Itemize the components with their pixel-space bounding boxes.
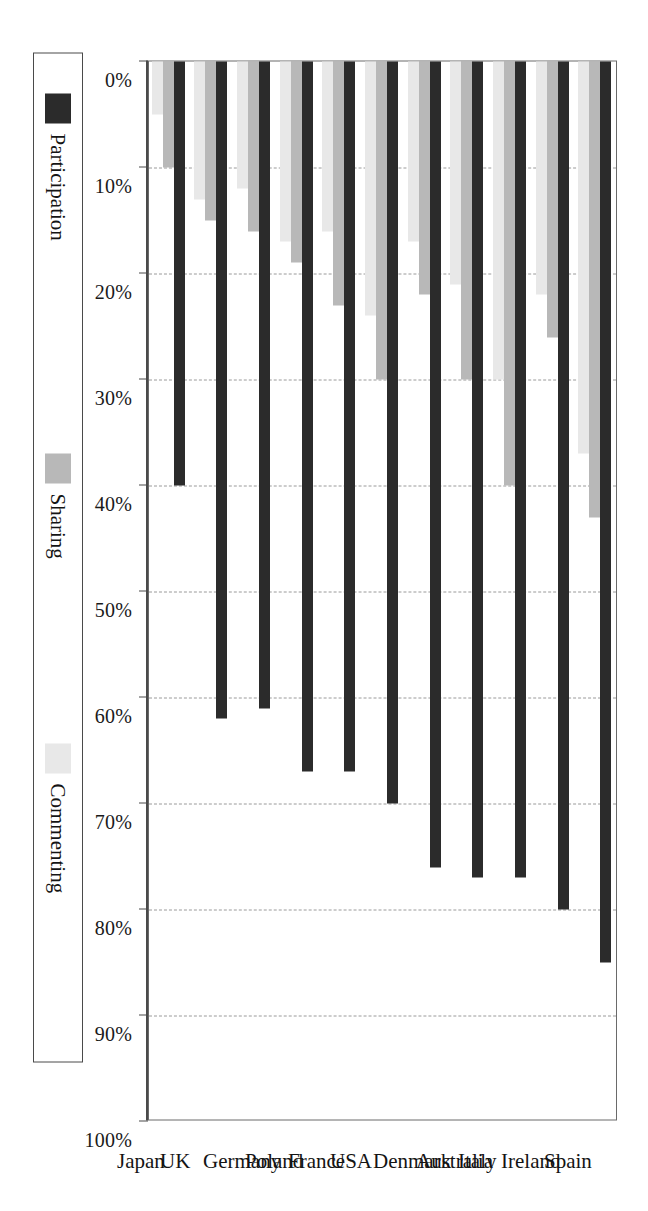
axis-tick (139, 60, 148, 61)
axis-tick-label: 10% (95, 174, 132, 197)
bar-commenting-france (322, 61, 333, 231)
bar-sharing-denmark (419, 61, 430, 294)
axis-tick-label: 20% (95, 280, 132, 303)
bar-sharing-poland (291, 61, 302, 262)
legend-swatch-icon (45, 453, 71, 483)
bar-commenting-germany (237, 61, 248, 188)
bar-participation-australia (472, 61, 483, 877)
axis-tick-label: 70% (95, 810, 132, 833)
plot-area (148, 60, 617, 1120)
bar-participation-spain (600, 61, 611, 962)
legend-entry-participation[interactable]: Participation (45, 93, 71, 240)
bar-commenting-italy (493, 61, 504, 379)
legend-label: Participation (46, 133, 71, 240)
axis-tick-label: 30% (95, 386, 132, 409)
axis-tick (139, 378, 148, 379)
bar-sharing-spain (589, 61, 600, 517)
bar-commenting-usa (365, 61, 376, 315)
bar-sharing-uk (205, 61, 216, 220)
axis-tick (139, 166, 148, 167)
axis-tick (139, 484, 148, 485)
axis-tick (139, 1120, 148, 1121)
bar-commenting-japan (152, 61, 163, 114)
bar-sharing-germany (248, 61, 259, 231)
bar-sharing-france (333, 61, 344, 305)
gridline (149, 909, 616, 910)
bar-commenting-denmark (408, 61, 419, 241)
bar-participation-uk (216, 61, 227, 718)
axis-tick-label: 80% (95, 916, 132, 939)
category-label-germany: Germany (203, 1148, 281, 1173)
bar-participation-france (344, 61, 355, 771)
legend-entry-commenting[interactable]: Commenting (45, 743, 71, 893)
axis-tick (139, 1014, 148, 1015)
category-label-denmark: Denmark (373, 1148, 451, 1173)
bar-sharing-ireland (547, 61, 558, 337)
axis-tick (139, 802, 148, 803)
bar-participation-italy (515, 61, 526, 877)
bar-sharing-usa (376, 61, 387, 379)
bar-commenting-ireland (536, 61, 547, 294)
bar-sharing-japan (163, 61, 174, 167)
axis-tick-label: 90% (95, 1022, 132, 1045)
bar-commenting-poland (280, 61, 291, 241)
chart-legend: ParticipationSharingCommenting (33, 52, 83, 1062)
axis-tick (139, 696, 148, 697)
axis-tick-label: 0% (105, 68, 132, 91)
bar-sharing-italy (504, 61, 515, 485)
gridline (149, 803, 616, 804)
axis-tick-label: 50% (95, 598, 132, 621)
legend-swatch-icon (45, 93, 71, 123)
bar-commenting-australia (450, 61, 461, 284)
legend-label: Commenting (46, 783, 71, 893)
axis-tick (139, 908, 148, 909)
bar-participation-ireland (558, 61, 569, 909)
bar-commenting-spain (578, 61, 589, 453)
bar-participation-japan (174, 61, 185, 485)
bar-participation-germany (259, 61, 270, 708)
category-label-ireland: Ireland (501, 1148, 560, 1173)
gridline (149, 1015, 616, 1016)
chart-canvas: 0%10%20%30%40%50%60%70%80%90%100% SpainI… (0, 0, 648, 1211)
axis-tick (139, 590, 148, 591)
bar-participation-usa (387, 61, 398, 803)
legend-label: Sharing (46, 493, 71, 558)
legend-swatch-icon (45, 743, 71, 773)
bar-participation-poland (302, 61, 313, 771)
axis-tick (139, 272, 148, 273)
legend-entry-sharing[interactable]: Sharing (45, 453, 71, 558)
axis-tick-label: 60% (95, 704, 132, 727)
bar-commenting-uk (194, 61, 205, 199)
axis-tick-label: 40% (95, 492, 132, 515)
bar-participation-denmark (430, 61, 441, 867)
category-label-japan: Japan (117, 1148, 165, 1173)
bar-sharing-australia (461, 61, 472, 379)
